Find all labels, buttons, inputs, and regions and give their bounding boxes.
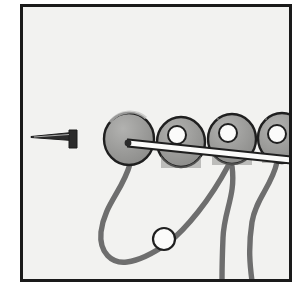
bead-1: [104, 112, 154, 165]
bead-3-speck: [217, 118, 219, 120]
working-needle-tip: [125, 140, 132, 147]
loop-bead: [153, 228, 175, 250]
loose-needle-eye-bar: [69, 130, 77, 148]
beading-diagram-svg: [0, 0, 305, 307]
bead-2-hole: [168, 126, 186, 144]
illustration-root: Beading stitch diagram Line-art craft il…: [0, 0, 305, 307]
bead-4-speck: [265, 118, 267, 120]
bead-3-hole: [219, 124, 237, 142]
bead-4-hole: [268, 125, 286, 143]
